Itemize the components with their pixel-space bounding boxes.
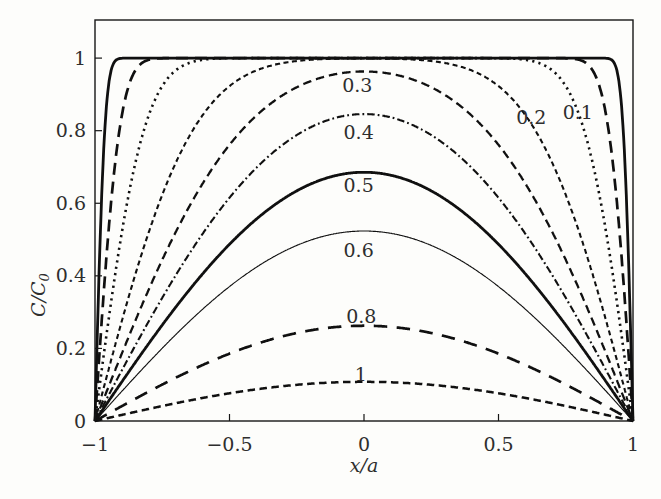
curve-label-0.8: 0.8 [346,305,376,327]
curve-label-0.5: 0.5 [344,174,374,196]
curve-label-0.4: 0.4 [344,121,374,143]
x-tick-label-−0.5: −0.5 [206,433,252,455]
y-tick-label-0.6: 0.6 [56,192,86,214]
x-tick-label-−1: −1 [81,433,109,455]
curve-label-1: 1 [355,363,367,385]
y-tick-label-0: 0 [74,410,86,432]
x-tick-label-0.5: 0.5 [483,433,513,455]
y-tick-label-0.2: 0.2 [56,337,86,359]
curve-label-0.1: 0.1 [563,101,593,123]
x-tick-label-1: 1 [627,433,639,455]
curve-label-0.2: 0.2 [516,106,546,128]
y-tick-label-1: 1 [74,47,86,69]
scanned-figure-page: −1−0.500.5100.20.40.60.81x/aC/C00.30.40.… [0,0,661,499]
concentration-profile-chart: −1−0.500.5100.20.40.60.81x/aC/C00.30.40.… [0,0,661,499]
curve-label-0.3: 0.3 [342,74,372,96]
y-axis-title: C/C0 [27,273,52,317]
x-axis-title: x/a [350,454,378,476]
x-tick-label-0: 0 [358,433,370,455]
y-tick-label-0.4: 0.4 [56,264,86,286]
y-tick-label-0.8: 0.8 [56,119,86,141]
curve-label-0.6: 0.6 [344,239,374,261]
